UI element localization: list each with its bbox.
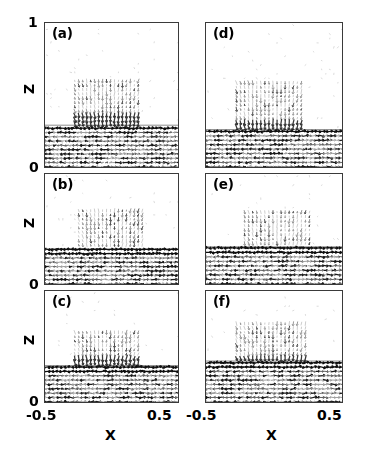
- quiver-field-d: [206, 23, 343, 168]
- panel-c: (c): [44, 290, 179, 403]
- xtick-left-max: 0.5: [147, 408, 172, 422]
- figure-root: (a) (b) (c) (d) (e) (f) 1 0 0 0 Z Z Z -0…: [0, 0, 367, 453]
- xtick-right-min: -0.5: [186, 408, 217, 422]
- panel-label-c: (c): [52, 295, 71, 309]
- panel-a: (a): [44, 22, 179, 168]
- xtick-right-max: 0.5: [317, 408, 342, 422]
- ytick-b-0: 0: [29, 277, 39, 291]
- yaxis-label-b: Z: [22, 214, 36, 232]
- panel-f: (f): [205, 290, 343, 403]
- panel-label-a: (a): [52, 27, 73, 41]
- xaxis-label-left: X: [105, 428, 116, 442]
- quiver-field-a: [45, 23, 179, 168]
- ytick-top-1: 1: [28, 15, 38, 29]
- xaxis-label-right: X: [266, 428, 277, 442]
- panel-d: (d): [205, 22, 343, 168]
- ytick-a-0: 0: [29, 160, 39, 174]
- panel-label-f: (f): [213, 295, 230, 309]
- panel-label-b: (b): [52, 178, 73, 192]
- yaxis-label-a: Z: [22, 80, 36, 98]
- panel-label-e: (e): [213, 178, 234, 192]
- yaxis-label-c: Z: [22, 331, 36, 349]
- panel-b: (b): [44, 173, 179, 285]
- panel-e: (e): [205, 173, 343, 285]
- xtick-left-min: -0.5: [26, 408, 57, 422]
- panel-label-d: (d): [213, 27, 234, 41]
- ytick-c-0: 0: [29, 394, 39, 408]
